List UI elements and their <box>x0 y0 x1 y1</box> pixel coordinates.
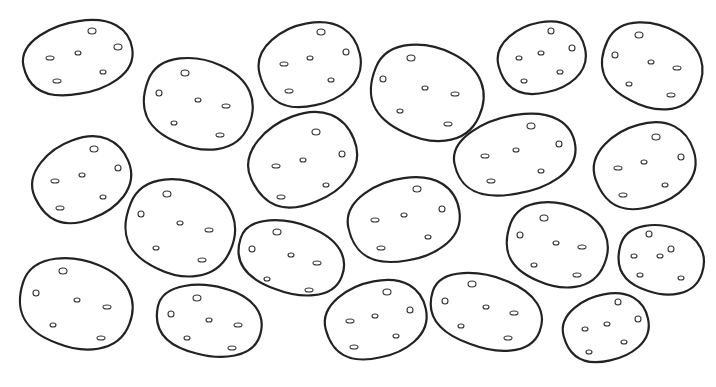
potato <box>229 208 353 308</box>
potato <box>250 12 370 117</box>
potato-outline <box>17 11 140 104</box>
potato <box>234 97 371 223</box>
potato <box>17 11 140 104</box>
potato-outline <box>556 285 656 371</box>
potato <box>150 276 268 366</box>
potato-outline <box>132 44 265 164</box>
potato-outline <box>250 12 370 117</box>
potato-outline <box>234 97 371 223</box>
potato-outline <box>112 164 249 292</box>
potato-outline <box>583 110 707 222</box>
potato-drawing <box>0 0 716 387</box>
potato <box>132 44 265 164</box>
potato <box>556 285 656 371</box>
potato <box>341 168 468 271</box>
potato-outline <box>589 7 716 124</box>
potato <box>611 216 712 304</box>
potato-outline <box>341 168 468 271</box>
potato <box>490 13 593 103</box>
potato-outline <box>490 13 593 103</box>
potato <box>112 164 249 292</box>
potato <box>8 244 144 363</box>
potato <box>589 7 716 124</box>
potato-outline <box>8 244 144 363</box>
potato-outline <box>229 208 353 308</box>
potato <box>583 110 707 222</box>
potato-outline <box>150 276 268 366</box>
potato-outline <box>611 216 712 304</box>
